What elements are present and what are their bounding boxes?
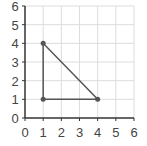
vertex-point xyxy=(41,97,46,102)
y-tick-label: 6 xyxy=(11,0,18,14)
y-tick-label: 0 xyxy=(11,111,18,126)
triangle-shape xyxy=(41,41,100,102)
tick-labels: 01234560123456 xyxy=(11,0,137,140)
x-tick-label: 0 xyxy=(21,125,28,140)
x-tick-label: 3 xyxy=(76,125,83,140)
axes xyxy=(22,6,134,121)
y-tick-label: 4 xyxy=(11,36,18,51)
x-tick-label: 1 xyxy=(40,125,47,140)
x-tick-label: 2 xyxy=(58,125,65,140)
x-tick-label: 5 xyxy=(112,125,119,140)
y-tick-label: 2 xyxy=(11,74,18,89)
vertex-point xyxy=(95,97,100,102)
grid-lines xyxy=(25,6,134,118)
y-tick-label: 1 xyxy=(11,92,18,107)
y-tick-label: 3 xyxy=(11,55,18,70)
y-tick-label: 5 xyxy=(11,18,18,33)
x-tick-label: 4 xyxy=(94,125,101,140)
x-tick-label: 6 xyxy=(130,125,137,140)
coordinate-grid-chart: 01234560123456 xyxy=(0,0,147,146)
vertex-point xyxy=(41,41,46,46)
triangle-outline xyxy=(43,43,97,99)
